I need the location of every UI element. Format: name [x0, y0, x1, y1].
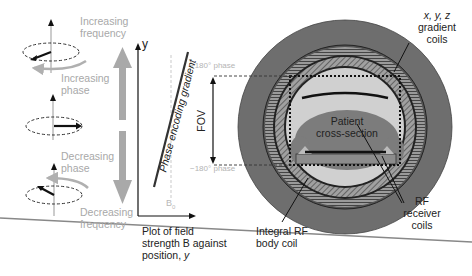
frequency-gradient-arrow [113, 47, 132, 204]
integral-rf-body-coil-label: Integral RF body coil [256, 226, 308, 250]
gradient-coils-label: x, y, z gradient coils [407, 10, 467, 45]
rf-receiver-coils-label: RF receiver coils [392, 196, 452, 231]
spin-reference [26, 94, 82, 140]
label-decreasing-phase: Decreasing phase [61, 151, 114, 175]
label-decreasing-frequency: Decreasing frequency [80, 207, 133, 231]
patient-cross-section-label: Patient cross-section [312, 116, 382, 140]
phase-encoding-diagram [0, 0, 472, 276]
spin-increasing-frequency [23, 19, 86, 73]
plot-caption: Plot of field strength B against positio… [142, 226, 227, 261]
plus-180-phase-label: +180° phase [190, 62, 235, 71]
label-increasing-phase: Increasing phase [61, 73, 109, 97]
b0-label: B0 [166, 198, 175, 211]
label-increasing-frequency: Increasing frequency [80, 16, 128, 40]
y-axis-label: y [142, 38, 148, 51]
fov-arrow [210, 77, 216, 164]
minus-180-phase-label: −180° phase [190, 165, 235, 174]
fov-label: FOV [196, 106, 208, 136]
